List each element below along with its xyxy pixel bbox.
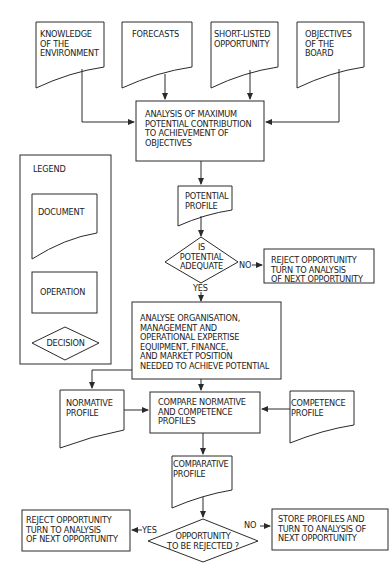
doc-normative-label: NORMATIVE PROFILE: [66, 399, 113, 418]
analyse-box-label: ANALYSE ORGANISATION, MANAGEMENT AND OPE…: [140, 314, 269, 372]
connector-objectives: [266, 69, 339, 122]
decision2-label: OPPORTUNITY TO BE REJECTED ?: [158, 532, 248, 551]
doc-knowledge-label: KNOWLEDGE OF THE ENVIRONMENT: [40, 30, 99, 59]
doc-competence-label: COMPETENCE PROFILE: [291, 399, 346, 418]
decision1-yes-label: YES: [193, 284, 208, 294]
decision2-yes-label: YES: [142, 526, 157, 536]
doc-objectives-label: OBJECTIVES OF THE BOARD: [305, 30, 352, 59]
doc-short-listed-label: SHORT-LISTED OPPORTUNITY: [214, 30, 270, 49]
compare-box-label: COMPARE NORMATIVE AND COMPETENCE PROFILE…: [158, 398, 246, 427]
legend-document-label: DOCUMENT: [38, 208, 84, 218]
legend-box-shape: [20, 155, 111, 364]
decision2-no-label: NO: [244, 521, 256, 531]
legend-title: LEGEND: [33, 165, 65, 175]
analysis-box-label: ANALYSIS OF MAXIMUM POTENTIAL CONTRIBUTI…: [145, 110, 251, 148]
reject1-box-label: REJECT OPPORTUNITY TURN TO ANALYSIS OF N…: [271, 256, 363, 285]
decision1-no-label: NO: [239, 261, 251, 271]
legend-decision-label: DECISION: [32, 339, 99, 349]
decision1-label: IS POTENTIAL ADEQUATE: [166, 243, 237, 272]
doc-comparative-label: COMPARATIVE PROFILE: [173, 460, 229, 479]
doc-potential-profile-label: POTENTIAL PROFILE: [185, 192, 228, 211]
legend-operation-label: OPERATION: [40, 288, 85, 298]
connector-knowledge: [82, 69, 134, 122]
legend-document-shape: [32, 194, 97, 259]
connector-analyse-normative: [92, 370, 132, 388]
doc-forecasts-label: FORECASTS: [132, 30, 179, 40]
store-box-label: STORE PROFILES AND TURN TO ANALYSIS OF N…: [278, 515, 366, 544]
reject2-box-label: REJECT OPPORTUNITY TURN TO ANALYSIS OF N…: [26, 516, 118, 545]
